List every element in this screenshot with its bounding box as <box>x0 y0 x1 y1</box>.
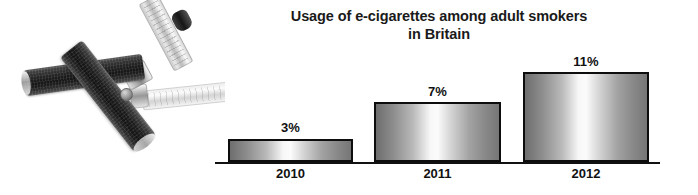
x-tick-label-2010: 2010 <box>228 166 353 181</box>
plot-area: 3% 2010 7% 2011 11% 2012 <box>215 0 698 195</box>
bar-2011[interactable] <box>374 102 501 162</box>
x-tick-label-2012: 2012 <box>523 166 649 181</box>
bar-value-2011: 7% <box>374 84 501 99</box>
bar-chart: Usage of e-cigarettes among adult smoker… <box>215 0 698 195</box>
ecigarette-photo <box>0 0 225 195</box>
bar-value-2010: 3% <box>228 120 353 135</box>
x-axis-line <box>215 162 660 164</box>
x-tick-label-2011: 2011 <box>374 166 501 181</box>
bar-value-2012: 11% <box>523 54 649 69</box>
bar-2010[interactable] <box>228 139 353 162</box>
ecig-clear-tank-front <box>141 81 225 110</box>
ecig-power-button <box>120 88 133 101</box>
chart-screenshot: Usage of e-cigarettes among adult smoker… <box>0 0 698 195</box>
bar-2012[interactable] <box>523 72 649 162</box>
